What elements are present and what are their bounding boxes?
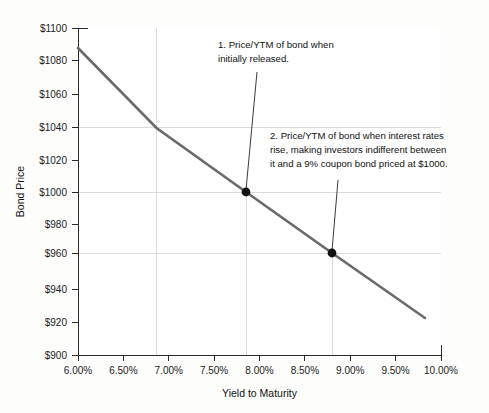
y-tick-label-940: $940 — [45, 284, 68, 295]
y-tick-label-1060: $1060 — [39, 89, 67, 100]
x-tick-label-6-50: 6.50% — [109, 365, 137, 376]
y-tick-label-1000: $1000 — [39, 187, 67, 198]
y-tick-label-1080: $1080 — [39, 55, 67, 66]
y-tick-label-1040: $1040 — [39, 122, 67, 133]
y-tick-label-960: $960 — [45, 248, 68, 259]
data-point-marker-initial — [242, 188, 251, 197]
plot-area-background — [78, 28, 441, 355]
y-tick-label-1020: $1020 — [39, 155, 67, 166]
x-axis-tick-labels: 6.00% 6.50% 7.00% 7.50% 8.00% 8.50% 9.00… — [64, 365, 458, 376]
y-tick-label-980: $980 — [45, 219, 68, 230]
y-axis-ticks — [72, 28, 78, 355]
y-axis-tick-labels: $1100 $1080 $1060 $1040 $1020 $1000 $980… — [39, 23, 67, 361]
y-tick-label-920: $920 — [45, 317, 68, 328]
x-axis-ticks — [78, 355, 441, 361]
x-axis-title: Yield to Maturity — [222, 387, 298, 399]
annotation-2-line-3: it and a 9% coupon bond priced at $1000. — [270, 158, 448, 169]
x-tick-label-8-50: 8.50% — [291, 365, 319, 376]
annotation-1-line-1: 1. Price/YTM of bond when — [218, 39, 334, 50]
y-tick-label-1100: $1100 — [40, 23, 68, 34]
x-tick-label-6-00: 6.00% — [64, 365, 92, 376]
x-tick-label-7-50: 7.50% — [200, 365, 228, 376]
annotation-2: 2. Price/YTM of bond when interest rates… — [270, 130, 448, 169]
bond-price-yield-chart: $1100 $1080 $1060 $1040 $1020 $1000 $980… — [0, 0, 489, 413]
data-point-marker-rate-rise — [328, 249, 337, 258]
annotation-2-line-1: 2. Price/YTM of bond when interest rates — [270, 130, 444, 141]
x-tick-label-8-00: 8.00% — [245, 365, 273, 376]
x-tick-label-7-00: 7.00% — [155, 365, 183, 376]
x-tick-label-9-50: 9.50% — [381, 365, 409, 376]
chart-page: $1100 $1080 $1060 $1040 $1020 $1000 $980… — [0, 0, 489, 413]
annotation-2-line-2: rise, making investors indifferent betwe… — [270, 144, 446, 155]
y-axis-title: Bond Price — [14, 166, 26, 218]
y-tick-label-900: $900 — [45, 350, 68, 361]
x-tick-label-10-00: 10.00% — [424, 365, 458, 376]
x-tick-label-9-00: 9.00% — [336, 365, 364, 376]
annotation-1-line-2: initially released. — [218, 53, 289, 64]
